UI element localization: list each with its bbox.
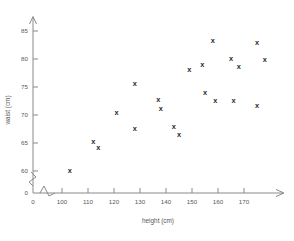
y-tick-label-80: 80 [21, 55, 28, 62]
data-point: x [203, 88, 208, 97]
x-tick-label-0: 0 [31, 198, 35, 205]
scatter-chart: 85 80 75 70 65 60 0 0 100 110 120 130 14 [0, 0, 294, 241]
y-tick-label-0: 0 [25, 189, 29, 196]
data-point: x [156, 95, 161, 104]
data-point: x [68, 166, 73, 175]
y-tick-label-65: 65 [21, 139, 28, 146]
data-point: x [213, 96, 218, 105]
data-point: x [200, 60, 205, 69]
data-point: x [232, 96, 237, 105]
chart-canvas: 85 80 75 70 65 60 0 0 100 110 120 130 14 [0, 0, 294, 241]
data-point: x [177, 130, 182, 139]
data-point-layer: xxxxxxxxxxxxxxxxxxxxx [68, 36, 268, 175]
x-axis-tick-labels: 0 100 110 120 130 140 150 160 170 [31, 198, 249, 205]
data-point: x [133, 79, 138, 88]
data-point: x [229, 54, 234, 63]
x-tick-label-160: 160 [213, 198, 224, 205]
y-axis-ticks [33, 31, 38, 171]
data-point: x [159, 104, 164, 113]
data-point: x [96, 143, 101, 152]
y-tick-label-85: 85 [21, 27, 28, 34]
data-point: x [237, 62, 242, 71]
x-tick-label-140: 140 [161, 198, 172, 205]
data-point: x [255, 38, 260, 47]
x-tick-label-170: 170 [239, 198, 250, 205]
y-axis-tick-labels: 85 80 75 70 65 60 0 [21, 27, 28, 196]
x-axis [33, 190, 284, 197]
y-tick-label-60: 60 [21, 167, 28, 174]
y-tick-label-75: 75 [21, 83, 28, 90]
data-point: x [211, 36, 216, 45]
x-axis-title: height (cm) [142, 217, 174, 225]
data-point: x [133, 124, 138, 133]
x-tick-label-150: 150 [187, 198, 198, 205]
x-axis-break-icon [40, 186, 55, 196]
x-tick-label-130: 130 [135, 198, 146, 205]
y-axis [30, 17, 37, 194]
data-point: x [187, 65, 192, 74]
y-tick-label-70: 70 [21, 111, 28, 118]
y-axis-title: waist (cm) [4, 95, 12, 125]
x-tick-label-120: 120 [109, 198, 120, 205]
data-point: x [255, 101, 260, 110]
x-tick-label-110: 110 [83, 198, 93, 205]
x-axis-ticks [62, 188, 244, 193]
data-point: x [115, 108, 120, 117]
data-point: x [263, 55, 268, 64]
x-tick-label-100: 100 [57, 198, 68, 205]
